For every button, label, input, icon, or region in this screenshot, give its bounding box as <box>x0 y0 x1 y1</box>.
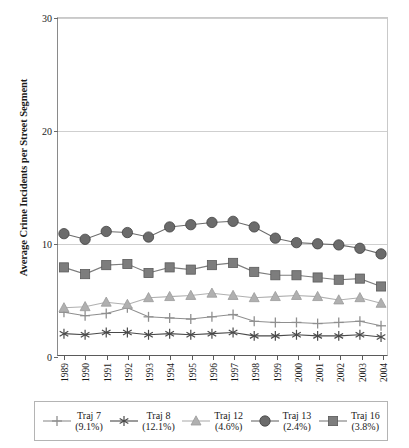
x-tick-label-2004: 2004 <box>379 363 389 382</box>
x-tick-mark-1994 <box>170 355 171 360</box>
x-tick-mark-1999 <box>277 355 278 360</box>
y-axis-title: Average Crime Incidents per Street Segme… <box>18 58 29 298</box>
legend-text: Traj 7(9.1%) <box>75 410 103 433</box>
plot-area: 0102030 19891990199119921993199419951996… <box>57 17 388 356</box>
legend-item-traj-7[interactable]: Traj 7(9.1%) <box>42 410 103 433</box>
x-tick-label-2002: 2002 <box>336 363 346 382</box>
legend-percent: (4.6%) <box>215 421 243 433</box>
legend-percent: (12.1%) <box>142 421 175 433</box>
x-tick-mark-1993 <box>149 355 150 360</box>
x-tick-label-1999: 1999 <box>273 363 283 382</box>
legend-marker-asterisk-icon <box>109 414 139 428</box>
legend-marker-circle-icon <box>250 414 280 428</box>
legend-item-traj-13[interactable]: Traj 13(2.4%) <box>250 410 312 433</box>
x-tick-label-1990: 1990 <box>81 363 91 382</box>
x-tick-mark-2002 <box>340 355 341 360</box>
legend-marker-square-icon <box>318 414 348 428</box>
x-tick-mark-1990 <box>85 355 86 360</box>
legend-percent: (3.8%) <box>352 421 380 433</box>
legend-label: Traj 7 <box>77 410 101 422</box>
x-tick-mark-2003 <box>362 355 363 360</box>
legend-text: Traj 16(3.8%) <box>351 410 380 433</box>
legend-text: Traj 12(4.6%) <box>214 410 243 433</box>
series-traj-12 <box>59 288 386 312</box>
x-tick-mark-1997 <box>234 355 235 360</box>
x-tick-label-1997: 1997 <box>230 363 240 382</box>
legend-item-traj-16[interactable]: Traj 16(3.8%) <box>318 410 380 433</box>
x-tick-label-1995: 1995 <box>188 363 198 382</box>
y-tick-mark-0 <box>54 357 58 358</box>
chart-figure: Average Crime Incidents per Street Segme… <box>0 0 409 448</box>
y-tick-label-20: 20 <box>42 126 52 137</box>
x-tick-label-1991: 1991 <box>103 363 113 382</box>
x-tick-label-2000: 2000 <box>294 363 304 382</box>
x-tick-mark-2001 <box>319 355 320 360</box>
legend-item-traj-8[interactable]: Traj 8(12.1%) <box>109 410 175 433</box>
x-tick-mark-1995 <box>192 355 193 360</box>
x-tick-mark-2000 <box>298 355 299 360</box>
y-tick-label-10: 10 <box>42 239 52 250</box>
legend-label: Traj 12 <box>214 410 243 422</box>
legend-percent: (9.1%) <box>75 421 103 433</box>
x-tick-mark-1996 <box>213 355 214 360</box>
legend-label: Traj 13 <box>283 410 312 422</box>
series-traj-13 <box>59 216 386 259</box>
x-tick-label-2003: 2003 <box>358 363 368 382</box>
legend-marker-triangle-icon <box>181 414 211 428</box>
series-traj-8 <box>60 328 386 342</box>
x-tick-mark-1998 <box>255 355 256 360</box>
x-tick-mark-1989 <box>64 355 65 360</box>
x-tick-label-1994: 1994 <box>166 363 176 382</box>
series-traj-7 <box>59 303 386 331</box>
data-series-layer <box>58 18 387 355</box>
series-traj-16 <box>59 258 385 291</box>
legend-text: Traj 13(2.4%) <box>283 410 312 433</box>
x-tick-label-1993: 1993 <box>145 363 155 382</box>
legend-marker-plus-icon <box>42 414 72 428</box>
x-tick-mark-1991 <box>107 355 108 360</box>
legend-item-traj-12[interactable]: Traj 12(4.6%) <box>181 410 243 433</box>
y-tick-label-30: 30 <box>42 13 52 24</box>
y-tick-label-0: 0 <box>47 352 52 363</box>
x-tick-mark-1992 <box>128 355 129 360</box>
legend-text: Traj 8(12.1%) <box>142 410 175 433</box>
x-tick-label-1992: 1992 <box>124 363 134 382</box>
chart-legend: Traj 7(9.1%)Traj 8(12.1%)Traj 12(4.6%)Tr… <box>34 401 388 441</box>
legend-label: Traj 16 <box>351 410 380 422</box>
x-tick-label-1996: 1996 <box>209 363 219 382</box>
x-tick-label-1989: 1989 <box>60 363 70 382</box>
x-tick-label-2001: 2001 <box>315 363 325 382</box>
x-tick-mark-2004 <box>383 355 384 360</box>
legend-percent: (2.4%) <box>283 421 311 433</box>
legend-label: Traj 8 <box>147 410 171 422</box>
x-tick-label-1998: 1998 <box>251 363 261 382</box>
